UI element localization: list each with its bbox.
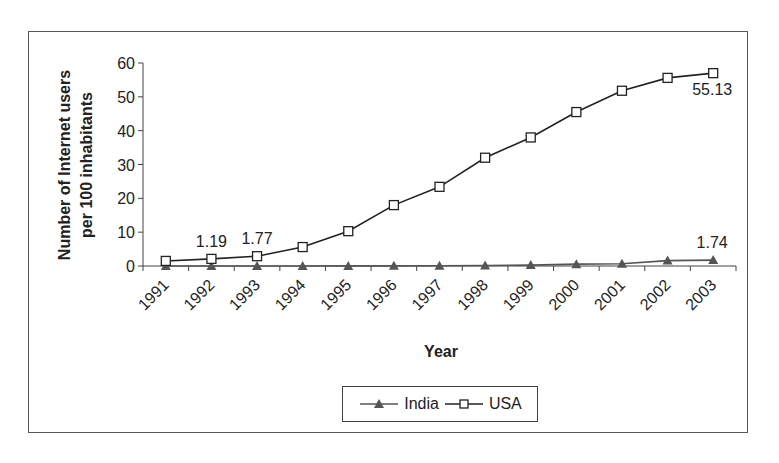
y-tick-label: 30 xyxy=(117,157,135,174)
square-marker-icon xyxy=(344,227,353,236)
y-tick-label: 0 xyxy=(126,258,135,275)
square-marker-icon xyxy=(572,108,581,117)
x-tick-label: 2001 xyxy=(591,276,628,313)
y-axis-title-line: per 100 inhabitants xyxy=(78,92,95,238)
legend-item-india: India xyxy=(358,395,439,413)
legend-item-usa: USA xyxy=(443,395,522,413)
x-tick-label: 1993 xyxy=(226,276,263,313)
x-tick-label: 2002 xyxy=(637,276,674,313)
y-tick-label: 60 xyxy=(117,55,135,72)
triangle-marker-icon xyxy=(358,397,400,411)
x-axis-title: Year xyxy=(424,343,458,360)
data-label: 55.13 xyxy=(692,81,732,98)
x-tick-label: 1994 xyxy=(272,276,309,313)
x-tick-label: 1996 xyxy=(363,276,400,313)
y-axis: 0102030405060 xyxy=(117,55,143,275)
y-axis-title: Number of Internet usersper 100 inhabita… xyxy=(56,70,95,260)
y-tick-label: 40 xyxy=(117,123,135,140)
data-label: 1.19 xyxy=(196,233,227,250)
x-tick-label: 1991 xyxy=(135,276,172,313)
y-axis-title-line: Number of Internet users xyxy=(56,70,73,260)
y-tick-label: 10 xyxy=(117,224,135,241)
data-labels: 1.191.7755.131.74 xyxy=(196,81,732,251)
square-marker-icon xyxy=(161,256,170,265)
square-marker-icon xyxy=(389,201,398,210)
x-tick-label: 1992 xyxy=(180,276,217,313)
data-label: 1.77 xyxy=(241,230,272,247)
x-axis: 1991199219931994199519961997199819992000… xyxy=(135,266,736,313)
legend-label-india: India xyxy=(404,395,439,413)
square-marker-icon xyxy=(617,86,626,95)
square-marker-icon xyxy=(481,153,490,162)
square-marker-icon xyxy=(253,252,262,261)
x-tick-label: 1997 xyxy=(408,276,445,313)
y-tick-label: 50 xyxy=(117,89,135,106)
square-marker-icon xyxy=(663,73,672,82)
square-marker-icon xyxy=(443,397,485,411)
square-marker-icon xyxy=(526,133,535,142)
legend-label-usa: USA xyxy=(489,395,522,413)
square-marker-icon xyxy=(709,69,718,78)
square-marker-icon xyxy=(207,254,216,263)
x-tick-label: 1999 xyxy=(500,276,537,313)
square-marker-icon xyxy=(298,243,307,252)
x-tick-label: 1998 xyxy=(454,276,491,313)
x-tick-label: 2003 xyxy=(682,276,719,313)
x-tick-label: 1995 xyxy=(317,276,354,313)
y-tick-label: 20 xyxy=(117,190,135,207)
legend: India USA xyxy=(342,386,538,422)
x-tick-label: 2000 xyxy=(545,276,582,313)
data-label: 1.74 xyxy=(697,234,728,251)
square-marker-icon xyxy=(435,182,444,191)
